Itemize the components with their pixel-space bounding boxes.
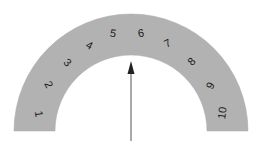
tick-label-10: 10 [215,106,229,120]
gauge-figure: 1 2 3 4 5 6 7 8 9 10 [0,0,263,152]
gauge-canvas: 1 2 3 4 5 6 7 8 9 10 [0,0,263,152]
